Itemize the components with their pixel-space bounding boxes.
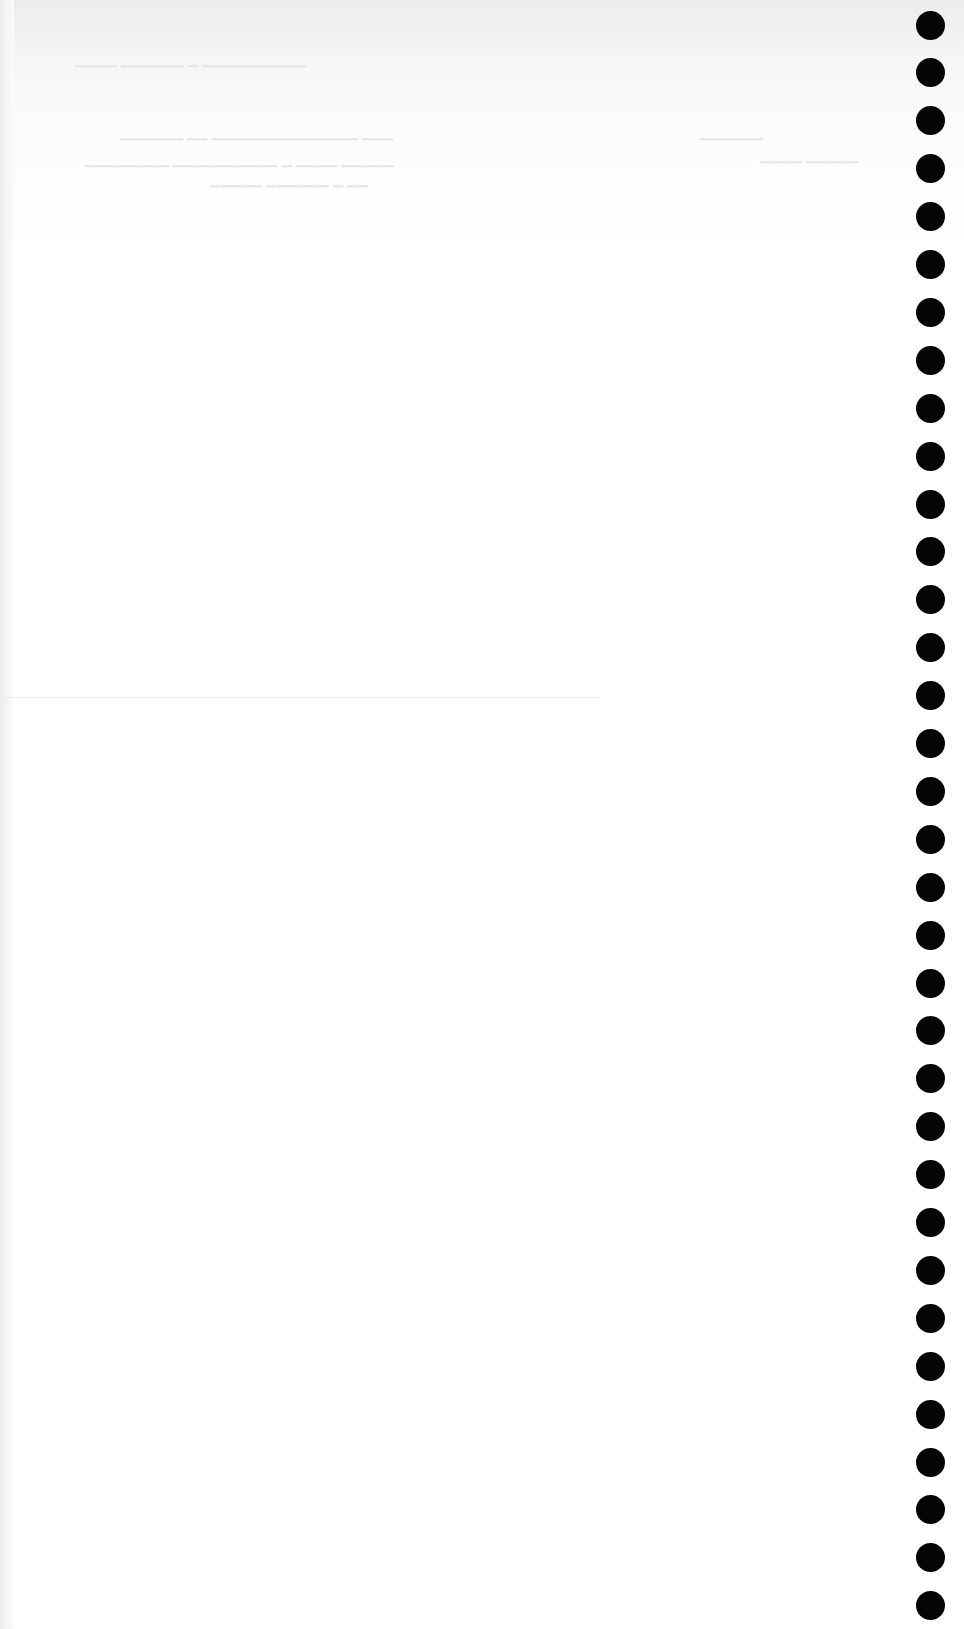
feed-hole [916, 442, 945, 471]
feed-hole [916, 1208, 945, 1237]
feed-hole [916, 298, 945, 327]
feed-hole [916, 154, 945, 183]
feed-hole [916, 633, 945, 662]
feed-hole [916, 1591, 945, 1620]
feed-hole [916, 250, 945, 279]
feed-hole [916, 585, 945, 614]
feed-hole [916, 1448, 945, 1477]
bleed-through-line-5: ▁▁▁▁▁▁ [700, 125, 763, 141]
tractor-feed-hole-strip [916, 0, 946, 1629]
feed-hole [916, 1543, 945, 1572]
feed-hole [916, 58, 945, 87]
feed-hole [916, 1064, 945, 1093]
feed-hole [916, 346, 945, 375]
feed-hole [916, 729, 945, 758]
feed-hole [916, 777, 945, 806]
bleed-through-line-6: ▁▁▁▁ ▁▁▁▁▁ [760, 148, 858, 164]
feed-hole [916, 969, 945, 998]
scanned-page: ▁▁▁▁ ▁▁▁▁▁▁ ▁ ▁▁▁▁▁▁▁▁▁▁ ▁▁▁▁▁▁ ▁▁ ▁▁▁▁▁… [0, 0, 964, 1629]
feed-hole [916, 11, 945, 40]
feed-hole [916, 1256, 945, 1285]
bleed-through-line-4: ▁▁▁▁▁ ▁▁▁▁▁▁ ▁ ▁▁ [210, 172, 368, 188]
feed-hole [916, 1495, 945, 1524]
feed-hole [916, 1304, 945, 1333]
feed-hole [916, 873, 945, 902]
feed-hole [916, 825, 945, 854]
bleed-through-line-3: ▁▁▁▁▁▁▁▁ ▁▁▁▁▁▁▁▁▁▁ ▁ ▁▁▁▁ ▁▁▁▁▁ [85, 152, 394, 168]
feed-hole [916, 202, 945, 231]
bleed-through-line-2: ▁▁▁▁▁▁ ▁▁ ▁▁▁▁▁▁▁▁▁▁▁▁▁▁ ▁▁▁ [120, 125, 394, 141]
fold-line [0, 697, 600, 698]
feed-hole [916, 1352, 945, 1381]
feed-hole [916, 394, 945, 423]
feed-hole [916, 1160, 945, 1189]
feed-hole [916, 1016, 945, 1045]
feed-hole [916, 106, 945, 135]
page-edge-shadow [0, 0, 14, 1629]
feed-hole [916, 1400, 945, 1429]
feed-hole [916, 490, 945, 519]
feed-hole [916, 921, 945, 950]
feed-hole [916, 1112, 945, 1141]
feed-hole [916, 681, 945, 710]
feed-hole [916, 537, 945, 566]
bleed-through-line-1: ▁▁▁▁ ▁▁▁▁▁▁ ▁ ▁▁▁▁▁▁▁▁▁▁ [75, 52, 307, 68]
